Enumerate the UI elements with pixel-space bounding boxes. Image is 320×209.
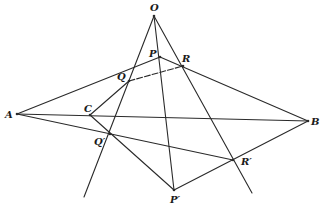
ray-O-R-Rprime [154, 16, 252, 193]
label-P: P [148, 48, 157, 59]
line-C-Q [90, 81, 129, 115]
point-A [16, 113, 19, 116]
line-C-Qprime-Pprime [90, 115, 174, 190]
point-Rp [232, 159, 235, 162]
label-Rp: R′ [240, 156, 252, 167]
point-Qp [109, 133, 112, 136]
desargues-diagram: OPRQACBQ′R′P′ [0, 0, 320, 209]
label-Pp: P′ [169, 194, 181, 205]
line-A-C-B [17, 114, 308, 121]
point-P [159, 56, 162, 59]
line-A-Qprime-Rprime [17, 114, 233, 160]
ray-O-P-Pprime [154, 16, 174, 190]
label-B: B [310, 116, 319, 127]
point-Pp [173, 189, 176, 192]
lines-layer [17, 16, 308, 197]
label-Q: Q [117, 71, 126, 82]
point-R [182, 65, 185, 68]
point-C [89, 114, 92, 117]
point-O [153, 15, 156, 18]
point-Q [128, 80, 131, 83]
label-O: O [150, 2, 159, 13]
label-C: C [84, 103, 92, 114]
label-R: R [181, 53, 190, 64]
label-A: A [4, 109, 13, 120]
point-B [307, 120, 310, 123]
label-Qp: Q′ [94, 136, 106, 147]
line-Q-R [129, 66, 183, 81]
ray-O-Q-Qprime [84, 16, 154, 197]
labels-layer: OPRQACBQ′R′P′ [4, 2, 319, 205]
